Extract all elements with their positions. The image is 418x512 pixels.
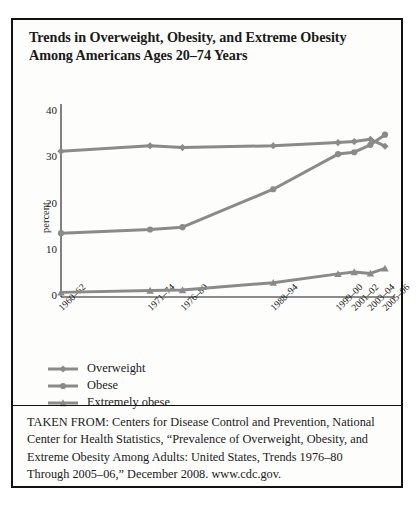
series-extremely-obese	[57, 265, 388, 296]
divider	[13, 405, 401, 406]
circle-marker-icon	[47, 379, 79, 393]
chart-legend: OverweightObeseExtremely obese	[47, 360, 347, 411]
triangle-marker-icon	[47, 396, 79, 410]
diamond-marker-icon	[47, 362, 79, 376]
legend-item: Overweight	[47, 360, 347, 377]
chart-plot-area: percent 010203040 1960–621971–741976–801…	[13, 82, 401, 334]
page-title: Trends in Overweight, Obesity, and Extre…	[29, 28, 385, 64]
source-note: TAKEN FROM: Centers for Disease Control …	[27, 414, 387, 484]
legend-label: Overweight	[87, 361, 146, 376]
legend-label: Obese	[87, 378, 118, 393]
figure-card: Trends in Overweight, Obesity, and Extre…	[11, 18, 403, 488]
line-chart-svg	[13, 82, 401, 334]
legend-item: Obese	[47, 377, 347, 394]
legend-item: Extremely obese	[47, 394, 347, 411]
legend-label: Extremely obese	[87, 395, 170, 410]
